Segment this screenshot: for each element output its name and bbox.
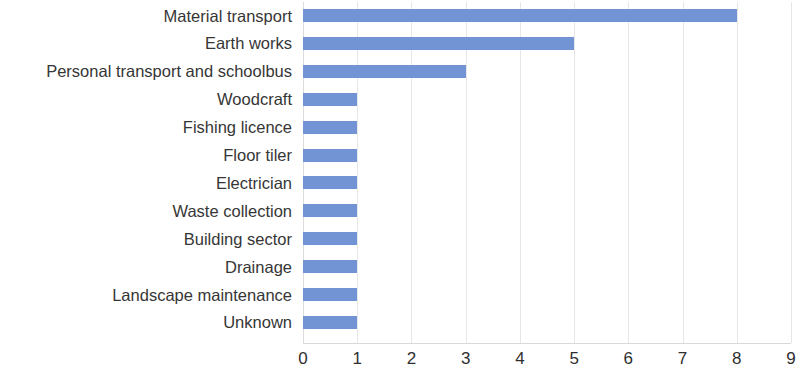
bar [303,260,357,273]
x-tick-label: 2 [407,350,416,367]
category-axis-labels: Material transportEarth worksPersonal tr… [0,0,292,345]
category-label: Unknown [0,314,292,331]
bar [303,316,357,329]
gridline-2 [411,2,412,343]
bar [303,149,357,162]
bar [303,204,357,217]
category-label: Waste collection [0,203,292,220]
gridline-9 [791,2,792,343]
category-label: Material transport [0,8,292,25]
category-label: Electrician [0,175,292,192]
gridline-7 [683,2,684,343]
x-tick-label: 6 [624,350,633,367]
x-axis-line [303,343,791,344]
x-tick-label: 1 [352,350,361,367]
gridline-6 [628,2,629,343]
bar [303,288,357,301]
category-label: Drainage [0,259,292,276]
bar [303,176,357,189]
bar [303,37,574,50]
category-label: Fishing licence [0,119,292,136]
bar-chart: Material transportEarth worksPersonal tr… [0,0,797,380]
category-label: Floor tiler [0,147,292,164]
x-tick-label: 4 [515,350,524,367]
gridline-8 [737,2,738,343]
bar [303,9,737,22]
category-label: Landscape maintenance [0,287,292,304]
gridline-5 [574,2,575,343]
x-tick-label: 8 [732,350,741,367]
gridline-4 [520,2,521,343]
x-tick-label: 3 [461,350,470,367]
bar [303,232,357,245]
category-label: Earth works [0,35,292,52]
category-label: Woodcraft [0,91,292,108]
bar [303,65,466,78]
plot-area [303,2,791,343]
x-tick-label: 5 [569,350,578,367]
category-label: Building sector [0,231,292,248]
gridline-1 [357,2,358,343]
x-tick-label: 9 [786,350,795,367]
bar [303,93,357,106]
gridline-3 [466,2,467,343]
x-tick-label: 7 [678,350,687,367]
x-tick-label: 0 [298,350,307,367]
bar [303,121,357,134]
category-label: Personal transport and schoolbus [0,63,292,80]
x-axis-tick-labels: 0123456789 [303,350,791,378]
